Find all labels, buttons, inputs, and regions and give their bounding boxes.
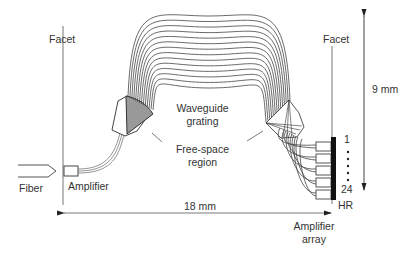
channel-dots [347,151,349,181]
hr-mirror [331,137,336,200]
left-star-coupler [112,96,153,136]
height-dimension-label: 9 mm [372,83,398,95]
output-waveguide [292,135,316,172]
width-dimension-label: 18 mm [175,200,225,212]
fiber-icon [18,165,56,177]
waveguide-grating-label-line2: grating [165,115,240,127]
free-space-leader-right [247,131,263,141]
amplifier-label: Amplifier [68,180,109,192]
right-facet-label: Facet [323,33,349,45]
channel-1-label: 1 [344,133,350,145]
free-space-label-line1: Free-space [160,143,245,155]
amplifier-array [316,142,331,199]
free-space-label-line2: region [160,156,245,168]
amplifier-array-label-line1: Amplifier [284,220,344,232]
left-facet-label: Facet [49,33,75,45]
amplifier-box [64,166,78,176]
amplifier-array-label-line2: array [284,233,344,245]
channel-24-label: 24 [341,183,353,195]
grating-arm [136,36,283,107]
fiber-label: Fiber [19,182,43,194]
grating-arm [134,31,285,106]
free-space-leader-left [152,133,162,142]
hr-label: HR [338,199,353,211]
waveguide-grating-label-line1: Waveguide [165,102,240,114]
